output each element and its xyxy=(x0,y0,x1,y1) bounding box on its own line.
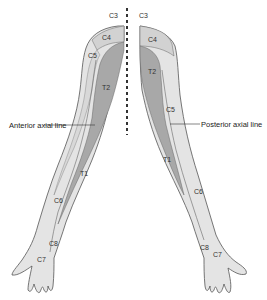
right-label-c6: C6 xyxy=(194,188,203,195)
right-label-c7: C7 xyxy=(213,251,222,258)
left-label-c8: C8 xyxy=(49,240,58,247)
anterior-axial-line-label: Anterior axial line xyxy=(9,121,67,130)
dermatome-diagram: C3 C4 C5 T2 T1 C6 C8 C7 Anterior axial l… xyxy=(0,0,267,300)
left-label-c4: C4 xyxy=(102,34,111,41)
left-label-t2: T2 xyxy=(102,84,110,91)
left-label-t1: T1 xyxy=(80,170,88,177)
left-arm: C3 C4 C5 T2 T1 C6 C8 C7 xyxy=(12,12,124,293)
right-label-c8: C8 xyxy=(200,244,209,251)
left-label-c3: C3 xyxy=(109,12,118,19)
left-label-c6: C6 xyxy=(54,197,63,204)
right-label-c3: C3 xyxy=(139,12,148,19)
right-label-c4: C4 xyxy=(148,36,157,43)
right-arm: C3 C4 T2 C5 T1 C6 C8 C7 xyxy=(139,12,246,293)
right-label-c5: C5 xyxy=(166,106,175,113)
left-label-c7: C7 xyxy=(37,256,46,263)
right-label-t1: T1 xyxy=(163,156,171,163)
left-label-c5: C5 xyxy=(88,52,97,59)
posterior-axial-line-label: Posterior axial line xyxy=(201,120,262,129)
right-label-t2: T2 xyxy=(148,68,156,75)
